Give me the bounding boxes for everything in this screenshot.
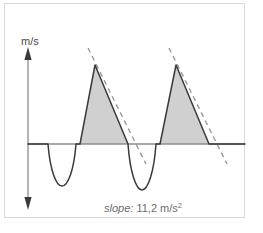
slope-caption-exponent: 2 <box>178 201 182 210</box>
figure-root: m/s slope: 11,2 m/s2 <box>0 0 263 233</box>
slope-caption-value: 11,2 m/s <box>133 202 178 214</box>
velocity-waveform-curve <box>28 65 245 190</box>
y-axis-down-arrowhead-icon <box>24 197 31 210</box>
y-axis-up-arrowhead-icon <box>24 47 31 60</box>
velocity-time-plot: m/s slope: 11,2 m/s2 <box>0 0 263 233</box>
slope-caption-word: slope: <box>104 202 133 214</box>
slope-caption: slope: 11,2 m/s2 <box>104 201 182 214</box>
y-axis-group <box>24 47 31 210</box>
y-axis-label: m/s <box>21 35 39 47</box>
